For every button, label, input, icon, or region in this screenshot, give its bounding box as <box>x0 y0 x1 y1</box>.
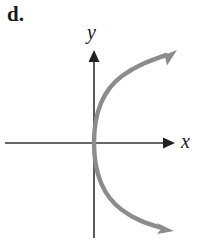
curve-upper-branch <box>94 55 166 143</box>
curve-lower-branch <box>94 143 162 228</box>
figure-container: d. y x <box>0 0 205 249</box>
x-axis-arrowhead-icon <box>163 138 175 149</box>
coordinate-plot <box>0 0 205 249</box>
x-axis-label: x <box>181 129 190 153</box>
y-axis-label: y <box>87 20 96 44</box>
y-axis-arrowhead-icon <box>89 50 100 62</box>
